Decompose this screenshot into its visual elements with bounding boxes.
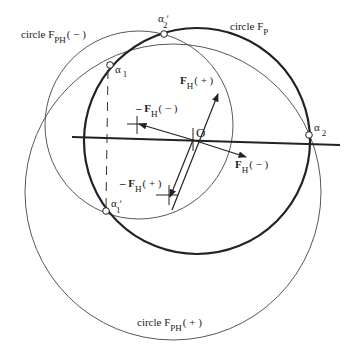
label-circle-fph-minus: circle FPH( − ) — [21, 28, 86, 45]
vector-neg-fh-plus — [170, 140, 193, 197]
point-alpha1-prime — [103, 208, 110, 215]
label-origin: O — [196, 125, 205, 140]
label-alpha1-prime: α ʹ1 — [111, 197, 122, 215]
point-alpha1 — [107, 62, 114, 69]
point-alpha2 — [306, 132, 313, 139]
label-fh-minus: FH( − ) — [235, 158, 269, 175]
label-neg-fh-plus: – FH( + ) — [119, 177, 162, 194]
label-circle-fph-plus: circle FPH( + ) — [137, 316, 202, 333]
label-neg-fh-minus: – FH( − ) — [135, 102, 178, 119]
label-alpha2: α2 — [314, 121, 326, 138]
harker-construction-diagram: circle FPH( − ) circle FP circle FPH( + … — [0, 0, 357, 350]
label-alpha2-prime: α ʹ2 — [158, 12, 169, 30]
circle-fph-plus — [25, 44, 321, 340]
vector-fh-plus — [172, 94, 218, 210]
label-alpha1: α1 — [115, 63, 127, 79]
vector-neg-fh-minus — [139, 124, 193, 140]
point-alpha2-prime — [161, 31, 168, 38]
label-fh-plus: FH( + ) — [180, 74, 214, 91]
